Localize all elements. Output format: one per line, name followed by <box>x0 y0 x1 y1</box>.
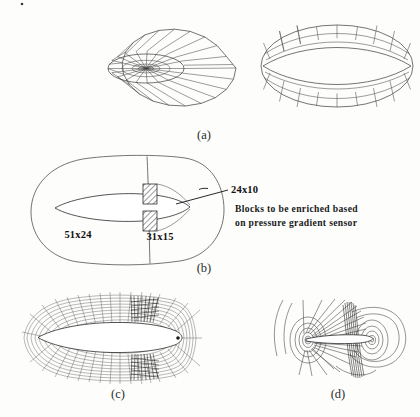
trailing-edge-point-c <box>176 336 180 340</box>
panel-label-c: (c) <box>111 387 125 401</box>
hatched-block-upper <box>143 184 157 204</box>
block-dimension-downstream: 31x15 <box>146 231 173 242</box>
figure-svg: (a) 51x24 31x15 24x10 Blocks to be enric… <box>0 0 420 417</box>
figure-container: (a) 51x24 31x15 24x10 Blocks to be enric… <box>0 0 420 417</box>
block-dimension-upstream: 51x24 <box>64 229 92 240</box>
enrichment-note-line-1: Blocks to be enriched based <box>235 203 358 214</box>
scan-artifact <box>21 3 24 6</box>
panel-label-d: (d) <box>331 387 346 401</box>
enrichment-note-line-2: on pressure gradient sensor <box>235 217 358 228</box>
panel-label-b: (b) <box>197 261 212 275</box>
panel-label-a: (a) <box>197 128 211 142</box>
block-dimension-enriched: 24x10 <box>231 184 258 195</box>
hatched-block-lower <box>143 211 157 231</box>
